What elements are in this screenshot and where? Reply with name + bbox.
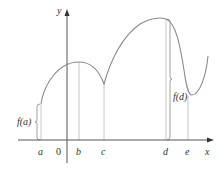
origin-label: 0 <box>56 146 61 157</box>
fa-label: f(a) <box>17 116 32 128</box>
x-axis-label: x <box>204 146 210 157</box>
point-label-b: b <box>76 146 81 157</box>
y-axis-label: y <box>56 5 62 16</box>
point-label-a: a <box>38 146 43 157</box>
fd-brace <box>167 19 172 140</box>
fd-label: f(d) <box>173 91 188 103</box>
point-label-d: d <box>163 146 169 157</box>
x-axis-arrow-icon <box>207 138 214 143</box>
point-label-e: e <box>185 146 190 157</box>
y-axis-arrow-icon <box>65 9 70 16</box>
point-label-c: c <box>101 146 106 157</box>
function-graph: y x 0 a b c d e f(a) f(d) <box>0 0 220 171</box>
fa-brace <box>35 104 40 140</box>
